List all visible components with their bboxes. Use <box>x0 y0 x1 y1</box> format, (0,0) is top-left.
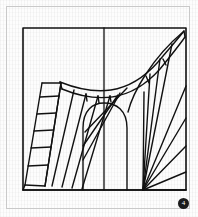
right-radiating-fan <box>143 44 186 190</box>
curved-handrail-band <box>60 31 185 98</box>
staircase-drawing <box>0 0 198 217</box>
figure-number-badge: 4 <box>178 198 189 209</box>
central-newel-arch <box>83 103 127 190</box>
winder-band-stubs <box>86 94 111 103</box>
plate-page: 4 <box>0 0 198 217</box>
inner-sweep-curve <box>128 32 183 112</box>
